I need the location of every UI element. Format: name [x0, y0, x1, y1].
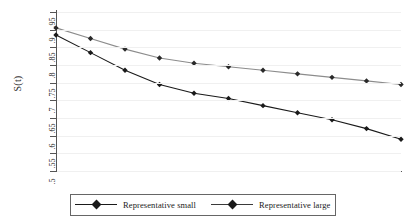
y-axis-tick-mark — [50, 100, 56, 101]
y-axis-tick-mark — [50, 65, 56, 66]
horizontal-gridline — [57, 136, 401, 137]
survival-curve-figure: S(t) .95.9.85.8.75.7.65.6.55.5 Represent… — [0, 0, 404, 224]
y-axis-tick-mark — [50, 171, 56, 172]
horizontal-gridline — [57, 153, 401, 154]
y-axis-tick-mark — [50, 83, 56, 84]
horizontal-gridline — [57, 65, 401, 66]
horizontal-gridline — [57, 83, 401, 84]
y-axis-tick-mark — [50, 118, 56, 119]
legend-label-representative-large: Representative large — [259, 200, 330, 210]
horizontal-gridline — [57, 12, 401, 13]
horizontal-gridline — [57, 47, 401, 48]
horizontal-gridline — [57, 100, 401, 101]
chart-legend: Representative small Representative larg… — [70, 194, 336, 216]
legend-entry-representative-large[interactable]: Representative large — [211, 195, 330, 215]
plot-area — [56, 12, 401, 171]
y-axis-tick-mark — [50, 136, 56, 137]
y-axis-tick-mark — [50, 30, 56, 31]
y-axis-tick-label-group: .95.9.85.8.75.7.65.6.55.5 — [28, 0, 52, 224]
y-axis-title: S(t) — [12, 69, 23, 99]
y-axis-tick-mark — [50, 47, 56, 48]
y-axis-tick-mark — [50, 12, 56, 13]
horizontal-gridline — [57, 118, 401, 119]
legend-marker-icon-small — [75, 199, 117, 211]
horizontal-gridline — [57, 171, 401, 172]
y-axis-tick-mark — [50, 153, 56, 154]
legend-marker-icon-large — [211, 199, 253, 211]
horizontal-gridline — [57, 30, 401, 31]
legend-entry-representative-small[interactable]: Representative small — [75, 195, 196, 215]
y-axis-tick-label: .5 — [48, 171, 57, 193]
legend-label-representative-small: Representative small — [123, 200, 196, 210]
